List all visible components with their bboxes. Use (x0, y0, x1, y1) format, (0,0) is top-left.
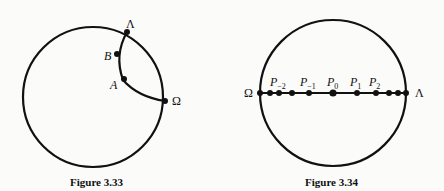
geodesic-arc (119, 32, 165, 101)
point-label: P0 (326, 75, 338, 91)
diameter-point (395, 90, 401, 96)
caption-figure-3-33: Figure 3.33 (70, 176, 123, 188)
label-lambda: Λ (126, 17, 135, 31)
point-omega (162, 98, 168, 104)
boundary-circle (23, 27, 163, 167)
diameter-point (403, 90, 409, 96)
diameter-point (257, 90, 263, 96)
point-label: P2 (368, 75, 380, 91)
diameter-point (289, 90, 295, 96)
label-omega: Ω (244, 86, 253, 100)
label-omega: Ω (172, 94, 181, 108)
figure-3-33: Λ B A Ω (23, 17, 181, 167)
label-lambda: Λ (415, 86, 424, 100)
point-a (121, 76, 127, 82)
caption-figure-3-34: Figure 3.34 (305, 176, 358, 188)
label-a: A (109, 78, 118, 92)
point-labels: P−2P−1P0P1P2 (269, 75, 380, 91)
diameter-point (267, 90, 273, 96)
label-b: B (104, 49, 112, 63)
point-label: P−1 (299, 75, 316, 91)
diameter-point (386, 90, 392, 96)
point-label: P−2 (269, 75, 286, 91)
figure-3-34: Ω Λ P−2P−1P0P1P2 (244, 20, 424, 166)
figures-canvas: Λ B A Ω Ω Λ P−2P−1P0P1P2 (0, 0, 444, 191)
point-label: P1 (349, 75, 361, 91)
point-b (114, 51, 120, 57)
